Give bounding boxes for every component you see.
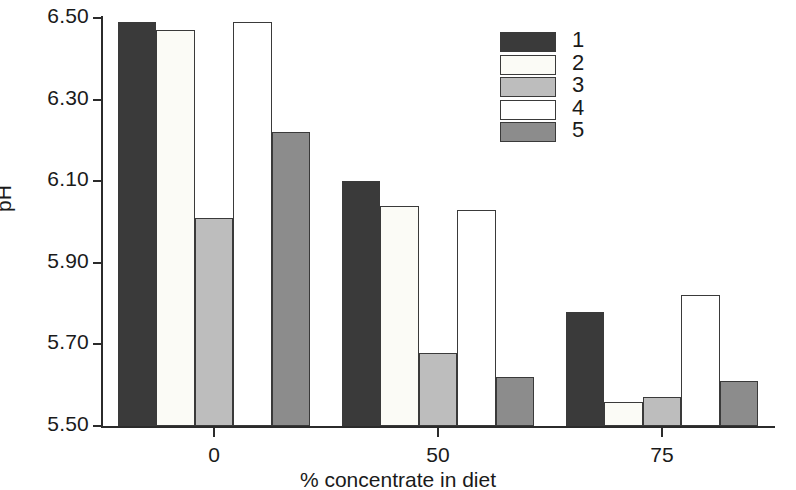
legend-item: 4 <box>500 100 640 123</box>
x-axis-tick-label: 75 <box>650 443 673 467</box>
bar-0-series-4 <box>233 22 272 426</box>
y-axis-tick-label: 5.70 <box>5 330 89 354</box>
y-axis-tick-label: 6.30 <box>5 86 89 110</box>
bar-75-series-3 <box>643 397 682 426</box>
bar-0-series-1 <box>118 22 157 426</box>
x-axis-title: % concentrate in diet <box>0 468 796 490</box>
bar-75-series-4 <box>681 295 720 426</box>
legend-item: 1 <box>500 32 640 55</box>
legend-item: 3 <box>500 77 640 100</box>
bar-0-series-3 <box>195 218 234 426</box>
legend-item: 5 <box>500 122 640 145</box>
y-axis-tick <box>93 262 102 264</box>
x-axis-tick <box>213 427 215 437</box>
legend-swatch <box>500 55 556 75</box>
y-axis-title: pH <box>0 185 16 212</box>
legend-item: 2 <box>500 55 640 78</box>
legend-label: 5 <box>572 117 584 143</box>
bar-75-series-1 <box>566 312 605 426</box>
y-axis-tick <box>93 99 102 101</box>
bar-50-series-2 <box>380 206 419 426</box>
x-axis-tick <box>437 427 439 437</box>
legend: 12345 <box>500 32 640 145</box>
bar-50-series-3 <box>419 353 458 426</box>
bar-50-series-1 <box>342 181 381 426</box>
bar-50-series-4 <box>457 210 496 426</box>
plot-area <box>102 18 774 426</box>
y-axis-tick <box>93 425 102 427</box>
y-axis-tick-label: 6.10 <box>5 167 89 191</box>
y-axis-tick-label: 6.50 <box>5 4 89 28</box>
legend-swatch <box>500 32 556 52</box>
bar-75-series-2 <box>604 402 643 426</box>
bar-chart-figure: 5.505.705.906.106.306.50 05075 pH % conc… <box>0 0 796 490</box>
x-axis-tick <box>661 427 663 437</box>
legend-swatch <box>500 100 556 120</box>
bar-0-series-2 <box>156 30 195 426</box>
x-axis-tick-label: 50 <box>426 443 449 467</box>
x-axis-tick-label: 0 <box>208 443 220 467</box>
bar-50-series-5 <box>496 377 535 426</box>
y-axis-tick <box>93 180 102 182</box>
y-axis-tick-label: 5.50 <box>5 412 89 436</box>
y-axis-tick <box>93 343 102 345</box>
legend-swatch <box>500 77 556 97</box>
legend-swatch <box>500 122 556 142</box>
bar-0-series-5 <box>272 132 311 426</box>
bar-75-series-5 <box>720 381 759 426</box>
y-axis-tick <box>93 17 102 19</box>
y-axis-tick-label: 5.90 <box>5 249 89 273</box>
